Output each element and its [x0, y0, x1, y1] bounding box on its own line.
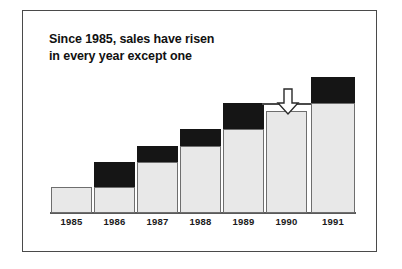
- bar-1988-base-segment: [180, 146, 221, 213]
- x-tick-label-1989: 1989: [223, 216, 264, 227]
- bar-1985[interactable]: [51, 187, 92, 213]
- bar-1987-increase-segment: [137, 146, 178, 163]
- bar-1986-base-segment: [94, 187, 135, 213]
- plot-area: 1985 1986 1987 1988 1989 1990 1991: [0, 0, 402, 269]
- bar-1990[interactable]: [266, 111, 307, 213]
- bar-1987[interactable]: [137, 146, 178, 213]
- bar-1985-base-segment: [51, 187, 92, 213]
- bar-1989[interactable]: [223, 103, 264, 213]
- x-tick-label-1985: 1985: [51, 216, 92, 227]
- x-tick-label-1988: 1988: [180, 216, 221, 227]
- bar-1991-increase-segment: [311, 77, 355, 104]
- bar-1988[interactable]: [180, 129, 221, 213]
- x-tick-label-1986: 1986: [94, 216, 135, 227]
- bar-1988-increase-segment: [180, 129, 221, 147]
- bar-1986[interactable]: [94, 162, 135, 213]
- chart-figure: Since 1985, sales have risen in every ye…: [0, 0, 402, 269]
- bar-1991[interactable]: [311, 77, 355, 213]
- bar-1989-base-segment: [223, 129, 264, 213]
- arrow-down-icon: [276, 88, 300, 116]
- bar-1986-increase-segment: [94, 162, 135, 188]
- bar-1989-increase-segment: [223, 103, 264, 130]
- x-tick-label-1990: 1990: [266, 216, 307, 227]
- x-tick-label-1987: 1987: [137, 216, 178, 227]
- x-tick-label-1991: 1991: [311, 216, 355, 227]
- bar-1990-base-segment: [266, 111, 307, 213]
- bar-1991-base-segment: [311, 103, 355, 213]
- bar-1987-base-segment: [137, 162, 178, 213]
